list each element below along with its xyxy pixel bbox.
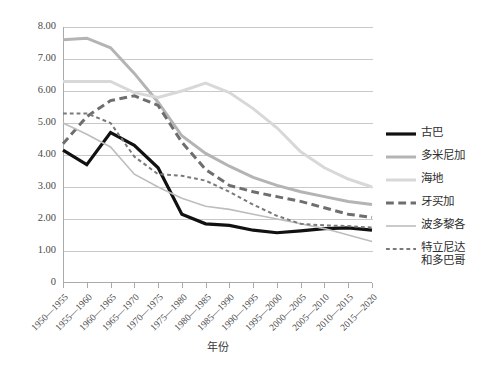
x-axis-tick [158, 283, 159, 288]
gridline [64, 27, 373, 28]
chart-container: 8.007.006.005.004.003.002.001.000 1950—1… [0, 0, 495, 369]
legend-label: 波多黎各 [421, 218, 465, 231]
gridline [64, 91, 373, 92]
y-axis-tick-label: 1.00 [18, 244, 56, 255]
gridline [64, 59, 373, 60]
y-axis-tick-label: 2.00 [18, 212, 56, 223]
y-axis-tick-label: 0 [18, 276, 56, 287]
legend-swatch-icon [386, 224, 416, 228]
legend-label: 多米尼加 [421, 149, 465, 162]
x-axis-tick [182, 283, 183, 288]
y-axis-tick-label: 4.00 [18, 148, 56, 159]
x-axis-tick [229, 283, 230, 288]
gridline [64, 219, 373, 220]
plot-area [63, 27, 372, 283]
legend-swatch-icon [386, 155, 416, 159]
legend-label: 古巴 [421, 126, 443, 139]
legend-swatch-icon [386, 178, 416, 182]
gridline [64, 123, 373, 124]
x-axis-tick [111, 283, 112, 288]
y-axis-tick-label: 8.00 [18, 20, 56, 31]
x-axis-tick [134, 283, 135, 288]
legend-item[interactable]: 牙买加 [386, 195, 494, 211]
gridline [64, 251, 373, 252]
x-axis-tick [372, 283, 373, 288]
x-axis-tick [206, 283, 207, 288]
legend-swatch-icon [386, 201, 416, 205]
x-axis-tick [324, 283, 325, 288]
x-axis-title: 年份 [0, 338, 435, 354]
y-axis-tick-label: 3.00 [18, 180, 56, 191]
x-axis-tick [87, 283, 88, 288]
x-axis-tick [253, 283, 254, 288]
legend-label: 特立尼达 和多巴哥 [421, 241, 465, 267]
legend-swatch-icon [386, 132, 416, 136]
x-axis-tick [301, 283, 302, 288]
x-axis-tick [63, 283, 64, 288]
y-axis-tick-label: 6.00 [18, 84, 56, 95]
legend-swatch-icon [386, 247, 416, 251]
y-axis-tick-label: 5.00 [18, 116, 56, 127]
legend-item[interactable]: 特立尼达 和多巴哥 [386, 241, 494, 269]
legend-item[interactable]: 多米尼加 [386, 149, 494, 165]
chart-legend: 古巴多米尼加海地牙买加波多黎各特立尼达 和多巴哥 [386, 126, 494, 276]
gridline [64, 155, 373, 156]
legend-label: 海地 [421, 172, 443, 185]
legend-item[interactable]: 波多黎各 [386, 218, 494, 234]
legend-item[interactable]: 海地 [386, 172, 494, 188]
x-axis-tick [348, 283, 349, 288]
legend-label: 牙买加 [421, 195, 454, 208]
y-axis-tick-label: 7.00 [18, 52, 56, 63]
legend-item[interactable]: 古巴 [386, 126, 494, 142]
gridline [64, 187, 373, 188]
x-axis-tick [277, 283, 278, 288]
